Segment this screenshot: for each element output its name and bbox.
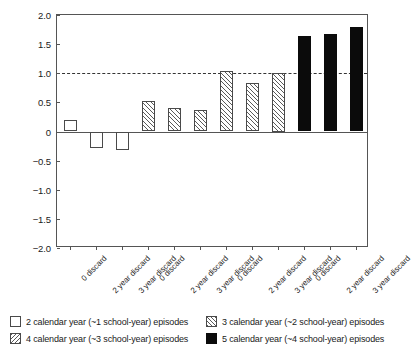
- y-axis-tick-label: −2.0: [33, 243, 57, 254]
- bar-5: [194, 110, 207, 132]
- x-axis-tick-mark: [226, 246, 227, 250]
- y-axis-tick-mark: [57, 132, 60, 133]
- y-axis-tick-mark: [57, 15, 60, 16]
- x-axis-tick-mark: [70, 246, 71, 250]
- x-axis-tick-mark: [200, 246, 201, 250]
- legend-swatch-icon: [206, 316, 217, 327]
- reference-line-1.0: [57, 73, 367, 74]
- x-axis-tick-mark: [356, 246, 357, 250]
- zero-baseline: [57, 132, 367, 133]
- legend-label: 5 calendar year (~4 school-year) episode…: [222, 334, 384, 344]
- y-axis-tick-mark: [57, 161, 60, 162]
- legend-entry-2: 4 calendar year (~3 school-year) episode…: [10, 333, 206, 344]
- plot-area: 2.01.51.00.50−0.5−1.0−1.5−2.0 0 discard2…: [56, 14, 368, 247]
- bar-8: [272, 73, 285, 131]
- legend-entry-3: 5 calendar year (~4 school-year) episode…: [206, 333, 382, 344]
- y-axis-tick-mark: [57, 190, 60, 191]
- y-axis-tick-mark: [57, 102, 60, 103]
- bar-9: [298, 36, 311, 132]
- legend-label: 3 calendar year (~2 school-year) episode…: [222, 317, 384, 327]
- y-axis-tick-label: 1.0: [38, 68, 57, 79]
- bar-4: [168, 108, 181, 131]
- y-axis-tick-label: 2.0: [38, 10, 57, 21]
- x-axis-tick-mark: [304, 246, 305, 250]
- legend-swatch-icon: [10, 316, 21, 327]
- bar-10: [324, 34, 337, 132]
- x-axis-tick-mark: [252, 246, 253, 250]
- x-axis-tick-mark: [122, 246, 123, 250]
- x-axis-tick-mark: [174, 246, 175, 250]
- legend-label: 2 calendar year (~1 school-year) episode…: [26, 317, 188, 327]
- bar-3: [142, 101, 155, 131]
- y-axis-tick-mark: [57, 73, 60, 74]
- legend-swatch-icon: [10, 333, 21, 344]
- bar-11: [350, 27, 363, 131]
- x-axis-tick-mark: [330, 246, 331, 250]
- bar-0: [64, 120, 77, 131]
- y-axis-tick-label: 0.5: [38, 97, 57, 108]
- y-axis-tick-mark: [57, 44, 60, 45]
- x-axis-tick-mark: [148, 246, 149, 250]
- legend-entry-0: 2 calendar year (~1 school-year) episode…: [10, 316, 206, 327]
- y-axis-tick-label: −0.5: [33, 155, 57, 166]
- legend-label: 4 calendar year (~3 school-year) episode…: [26, 334, 188, 344]
- x-axis-tick-mark: [278, 246, 279, 250]
- y-axis-tick-label: −1.0: [33, 184, 57, 195]
- bar-2: [116, 132, 129, 150]
- x-axis-tick-label: 0 discard: [80, 254, 109, 283]
- bar-7: [246, 83, 259, 131]
- chart-legend: 2 calendar year (~1 school-year) episode…: [10, 313, 382, 347]
- y-axis-tick-mark: [57, 248, 60, 249]
- x-axis-tick-mark: [96, 246, 97, 250]
- bar-6: [220, 71, 233, 132]
- legend-entry-1: 3 calendar year (~2 school-year) episode…: [206, 316, 382, 327]
- bar-1: [90, 132, 103, 149]
- y-axis-tick-label: 1.5: [38, 39, 57, 50]
- y-axis-tick-label: 0: [46, 126, 57, 137]
- legend-swatch-icon: [206, 333, 217, 344]
- y-axis-tick-label: −1.5: [33, 213, 57, 224]
- y-axis-tick-mark: [57, 219, 60, 220]
